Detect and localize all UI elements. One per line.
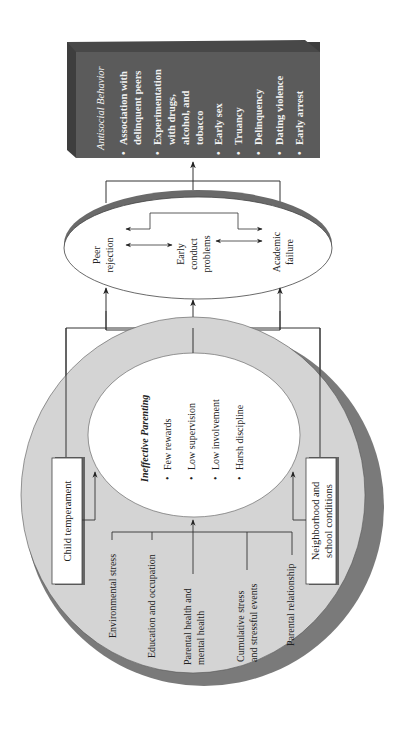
factor-cumulative-stress: and stressful events [248,584,259,662]
factor-parental-health: mental health [195,611,206,665]
academic-failure-label: Academic [271,231,282,272]
bullet-icon: • [162,476,173,480]
peer-rejection-label: Peer [91,245,102,263]
bullet-icon: • [210,476,221,480]
bullet-icon: • [294,151,305,155]
early-conduct-label: problems [201,235,212,272]
bullet-icon: • [253,151,264,155]
antisocial-item: Dating violence [274,76,285,145]
bullet-icon: • [152,151,163,155]
antisocial-item: Experimentation [152,69,163,145]
parenting-item: Harsh discipline [234,404,245,470]
early-conduct-label: conduct [188,238,199,270]
antisocial-item: Delinquency [253,88,264,145]
diagram: Antisocial Behavior • Association with d… [0,0,398,738]
bullet-icon: • [186,476,197,480]
factor-parental-relationship: Parental relationship [285,564,296,646]
antisocial-item: delinquent peers [132,71,143,145]
early-problems-ellipse: Peer rejection Early conduct problems Ac… [64,190,332,299]
child-temperament-label: Child temperament [62,481,73,562]
antisocial-title: Antisocial Behavior [95,65,106,151]
bullet-icon: • [118,151,129,155]
antisocial-item: with drugs, [166,94,177,145]
antisocial-behavior-box: Antisocial Behavior • Association with d… [67,40,320,158]
factor-education-occupation: Education and occupation [146,554,157,658]
parenting-item: Few rewards [162,419,173,470]
peer-rejection-label: rejection [104,238,115,273]
antisocial-item: Early sex [213,103,224,145]
context-circle: Ineffective Parenting • Few rewards • Lo… [21,317,384,686]
parenting-item: Low supervision [186,403,197,470]
antisocial-item: tobacco [194,111,205,145]
parenting-title: Ineffective Parenting [139,395,150,483]
antisocial-item: alcohol, and [180,91,191,145]
neighborhood-label: Neighborhood and [310,481,321,560]
bullet-icon: • [234,476,245,480]
factor-environmental-stress: Environmental stress [107,554,118,638]
antisocial-item: Association with [118,71,129,145]
bullet-icon: • [213,151,224,155]
early-conduct-label: Early [175,243,186,265]
parenting-item: Low involvement [210,399,221,470]
antisocial-item: Truancy [233,107,244,145]
bullet-icon: • [274,151,285,155]
bullet-icon: • [233,151,244,155]
factor-cumulative-stress: Cumulative stress [235,591,246,662]
academic-failure-label: failure [284,238,295,265]
antisocial-item: Early arrest [294,90,305,145]
neighborhood-label: school conditions [323,484,334,558]
factor-parental-health: Parental health and [182,588,193,665]
